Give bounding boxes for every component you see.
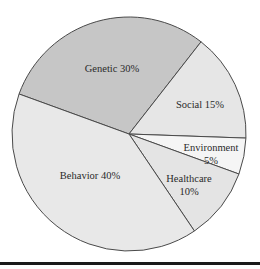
bottom-rule bbox=[0, 262, 260, 265]
label-genetic: Genetic 30% bbox=[85, 63, 140, 74]
label-social: Social 15% bbox=[176, 99, 224, 110]
pie-slices bbox=[12, 17, 246, 251]
pie-chart: Genetic 30% Social 15% Environment5% Hea… bbox=[0, 0, 260, 269]
label-behavior: Behavior 40% bbox=[60, 170, 121, 181]
